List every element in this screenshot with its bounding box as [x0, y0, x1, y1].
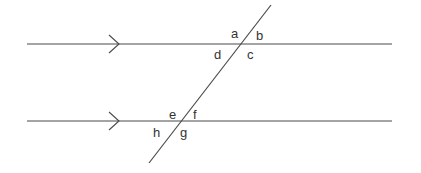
angle-label-d: d	[214, 47, 221, 62]
parallel-lines-diagram: a b d c e f h g	[0, 0, 421, 173]
angle-label-b: b	[256, 28, 263, 43]
angle-label-c: c	[247, 47, 254, 62]
angle-label-e: e	[169, 107, 176, 122]
angle-label-g: g	[180, 125, 187, 140]
angle-label-a: a	[231, 26, 239, 41]
angle-label-h: h	[153, 125, 160, 140]
transversal-line	[149, 5, 271, 163]
angle-label-f: f	[193, 107, 197, 122]
